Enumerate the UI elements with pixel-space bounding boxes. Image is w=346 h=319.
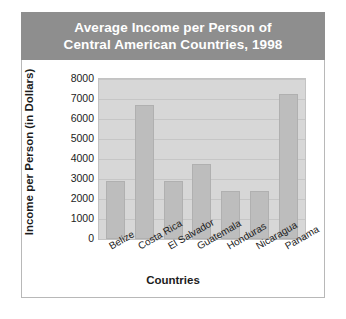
chart-title-line-2: Central American Countries, 1998 [64,36,283,53]
x-axis-title: Countries [22,274,324,286]
y-tick-label: 1000 [71,213,94,224]
y-axis-title-line-1: Income per Person [23,132,36,236]
chart-title-line-1: Average Income per Person of [74,19,271,36]
y-tick-label: 7000 [71,93,94,104]
y-axis-tick-labels: 010002000300040005000600070008000 [46,78,94,240]
y-tick-label: 4000 [71,153,94,164]
chart-figure: Average Income per Person of Central Ame… [0,0,346,319]
chart-frame: Income per Person (in Dollars) 010002000… [21,60,325,298]
y-tick-label: 8000 [71,73,94,84]
bar-costa-rica [135,105,154,239]
chart-title-banner: Average Income per Person of Central Ame… [21,12,325,60]
bar-belize [106,181,125,239]
plot-area [98,78,306,240]
y-axis-title-line-2: (in Dollars) [23,69,36,129]
y-axis-title: Income per Person (in Dollars) [16,72,42,232]
y-tick-label: 6000 [71,113,94,124]
y-tick-label: 3000 [71,173,94,184]
bars-container [99,79,305,239]
y-tick-label: 0 [88,233,94,244]
bar-panama [279,94,298,239]
y-tick-label: 2000 [71,193,94,204]
y-tick-label: 5000 [71,133,94,144]
